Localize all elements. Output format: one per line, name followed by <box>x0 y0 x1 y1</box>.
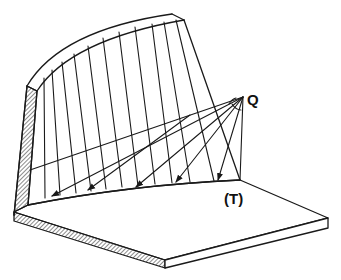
diagram-canvas <box>0 0 341 280</box>
curve-t-label: (T) <box>224 191 243 206</box>
point-q-label: Q <box>247 92 259 107</box>
generator-lines <box>44 20 214 198</box>
ray-envelope <box>30 97 243 170</box>
floor-slab <box>14 180 328 268</box>
